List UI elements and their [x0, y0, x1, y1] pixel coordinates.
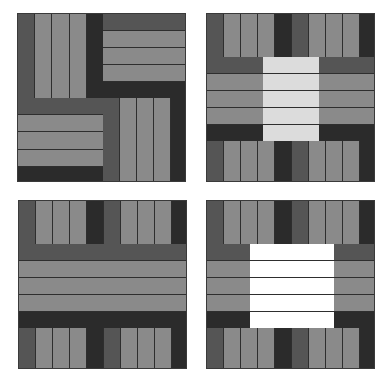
strip	[207, 73, 263, 90]
strip	[342, 14, 359, 57]
band-middle-right	[319, 57, 375, 141]
block-horizontal-strips	[18, 98, 103, 182]
strip	[319, 73, 375, 90]
band-middle-horizontal-strips	[19, 244, 187, 328]
strip	[103, 81, 186, 98]
strip	[274, 201, 291, 244]
strip	[207, 260, 250, 277]
strip	[52, 201, 69, 244]
band-top-vertical-strips	[207, 201, 375, 244]
strip	[263, 124, 319, 141]
strip	[325, 14, 342, 57]
strip	[250, 244, 334, 260]
strip	[240, 14, 257, 57]
strip	[263, 107, 319, 124]
strip	[359, 328, 375, 369]
strip	[319, 124, 375, 141]
strip	[19, 201, 35, 244]
strip	[154, 328, 171, 369]
strip	[240, 328, 257, 369]
strip	[223, 201, 240, 244]
strip	[274, 14, 291, 57]
strip	[334, 244, 375, 260]
panel-top-right	[206, 13, 375, 182]
block-horizontal-strips	[103, 14, 186, 98]
strip	[18, 14, 34, 98]
strip	[250, 294, 334, 311]
strip	[334, 277, 375, 294]
strip	[19, 277, 187, 294]
strip	[308, 141, 325, 182]
strip	[69, 14, 86, 98]
strip	[103, 47, 186, 64]
band-top-vertical-strips	[207, 14, 375, 57]
strip	[19, 244, 187, 260]
strip	[308, 201, 325, 244]
strip	[119, 98, 136, 182]
panel-top-left	[17, 13, 186, 182]
band-bottom-vertical-strips	[19, 328, 187, 369]
strip	[263, 90, 319, 107]
strip	[359, 14, 375, 57]
strip	[34, 14, 51, 98]
strip	[136, 98, 153, 182]
strip	[18, 166, 103, 182]
strip	[103, 30, 186, 47]
strip	[18, 149, 103, 166]
band-middle-left	[207, 244, 250, 328]
strip	[69, 328, 86, 369]
strip	[240, 141, 257, 182]
strip	[18, 131, 103, 148]
band-bottom-vertical-strips	[207, 328, 375, 369]
strip	[86, 14, 103, 98]
strip	[120, 201, 137, 244]
strip	[263, 57, 319, 73]
strip	[325, 328, 342, 369]
strip	[274, 141, 291, 182]
panel-bottom-right	[206, 200, 375, 369]
strip	[207, 124, 263, 141]
strip	[137, 201, 154, 244]
strip	[359, 201, 375, 244]
strip	[291, 328, 308, 369]
strip	[69, 201, 86, 244]
strip	[19, 294, 187, 311]
panel-bottom-left	[18, 200, 187, 369]
strip	[207, 311, 250, 328]
strip	[207, 201, 223, 244]
strip	[103, 98, 119, 182]
strip	[257, 141, 274, 182]
strip	[86, 201, 103, 244]
strip	[137, 328, 154, 369]
strip	[18, 114, 103, 131]
strip	[103, 64, 186, 81]
strip	[308, 328, 325, 369]
strip	[171, 328, 187, 369]
center-square-pale	[263, 57, 319, 141]
strip	[291, 201, 308, 244]
strip	[223, 14, 240, 57]
band-bottom-vertical-strips	[207, 141, 375, 182]
strip	[250, 260, 334, 277]
strip	[103, 14, 186, 30]
strip	[170, 98, 186, 182]
strip	[103, 201, 120, 244]
strip	[86, 328, 103, 369]
strip	[257, 201, 274, 244]
strip	[35, 328, 52, 369]
strip	[257, 14, 274, 57]
strip	[334, 311, 375, 328]
band-middle-left	[207, 57, 263, 141]
strip	[207, 244, 250, 260]
strip	[334, 260, 375, 277]
block-vertical-strips	[18, 14, 103, 98]
strip	[319, 57, 375, 73]
band-top-vertical-strips	[19, 201, 187, 244]
strip	[207, 90, 263, 107]
strip	[52, 328, 69, 369]
strip	[207, 277, 250, 294]
strip	[19, 328, 35, 369]
strip	[207, 141, 223, 182]
strip	[207, 57, 263, 73]
strip	[325, 201, 342, 244]
